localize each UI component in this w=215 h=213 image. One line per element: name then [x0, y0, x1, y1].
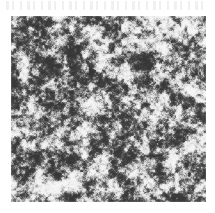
- scanner-bleed-through-artifact: [6, 1, 206, 10]
- micrograph-canvas: [11, 16, 206, 202]
- micrograph-figure: [11, 16, 206, 202]
- scanned-page: [0, 0, 215, 213]
